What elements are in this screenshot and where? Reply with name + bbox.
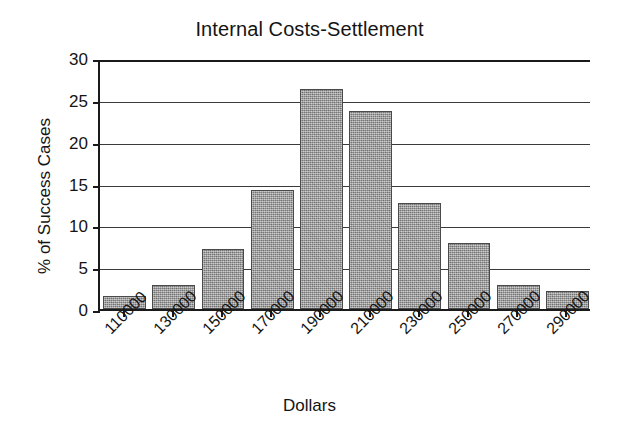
y-axis-tick: [93, 269, 100, 271]
y-axis-tick-label: 10: [48, 217, 88, 237]
bar: [349, 111, 392, 309]
chart-figure: Internal Costs-Settlement % of Success C…: [0, 0, 619, 431]
x-axis-tick-labels: 1100001300001500001700001900002100002300…: [98, 311, 590, 396]
y-axis-tick: [93, 227, 100, 229]
y-axis-tick: [93, 60, 100, 62]
plot-area: [98, 60, 590, 311]
bar-series: [100, 60, 590, 309]
chart-title: Internal Costs-Settlement: [0, 18, 619, 41]
y-axis-tick-label: 0: [48, 301, 88, 321]
y-axis-tick-label: 25: [48, 92, 88, 112]
bar: [300, 89, 343, 309]
x-axis-title: Dollars: [0, 396, 619, 416]
y-axis-tick: [93, 186, 100, 188]
y-axis-tick-label: 15: [48, 176, 88, 196]
y-axis-tick: [93, 102, 100, 104]
y-axis-tick-label: 30: [48, 50, 88, 70]
y-axis-tick-label: 20: [48, 134, 88, 154]
y-axis-tick: [93, 144, 100, 146]
y-axis-tick-label: 5: [48, 259, 88, 279]
